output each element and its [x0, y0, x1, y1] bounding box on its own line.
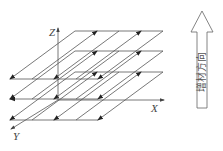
scan-track: [10, 51, 75, 99]
layer-middle: [10, 51, 163, 99]
z-axis-label: Z: [49, 26, 56, 38]
y-axis-label: Y: [13, 130, 21, 142]
scan-strategy-diagram: Z X Y 增材方向: [0, 0, 223, 151]
build-direction-arrow: 增材方向: [191, 11, 213, 108]
scan-track: [10, 31, 75, 79]
scan-track: [76, 51, 141, 99]
axes: [11, 28, 164, 129]
build-direction-label: 增材方向: [195, 52, 207, 92]
scan-track: [54, 51, 119, 99]
scan-track: [32, 51, 97, 99]
scan-track: [98, 51, 163, 99]
layers-group: [10, 31, 163, 120]
x-axis-label: X: [150, 102, 159, 114]
